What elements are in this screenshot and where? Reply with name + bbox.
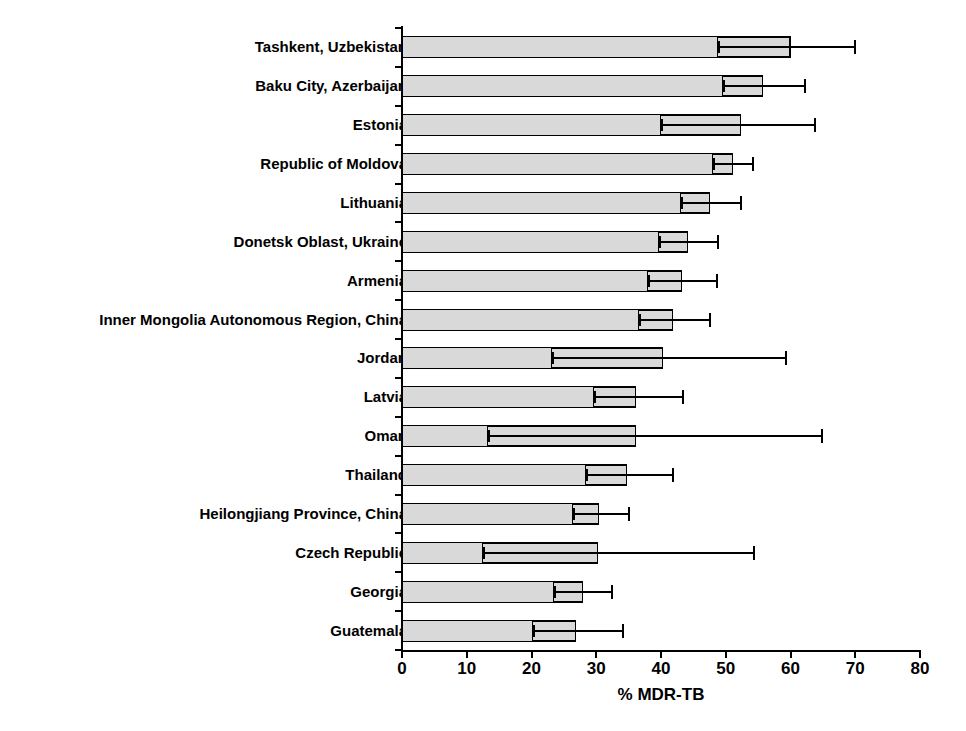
ci-whisker-line bbox=[763, 85, 806, 87]
bar-row: Guatemala bbox=[0, 611, 966, 650]
x-tick-60 bbox=[790, 651, 792, 658]
ci-upper-cap bbox=[753, 546, 755, 560]
category-label: Thailand bbox=[345, 466, 407, 484]
ci-whisker-line bbox=[733, 163, 753, 165]
x-tick-40 bbox=[660, 651, 662, 658]
bar-row: Latvia bbox=[0, 378, 966, 417]
ci-center-line bbox=[551, 357, 663, 359]
ci-upper-cap bbox=[717, 235, 719, 249]
bar-row: Baku City, Azerbaijan bbox=[0, 67, 966, 106]
bar-row: Republic of Moldova bbox=[0, 145, 966, 184]
ci-whisker-line bbox=[673, 319, 710, 321]
category-label: Donetsk Oblast, Ukraine bbox=[234, 233, 407, 251]
bar-row: Jordan bbox=[0, 339, 966, 378]
category-label: Latvia bbox=[364, 388, 407, 406]
category-label: Baku City, Azerbaijan bbox=[255, 77, 407, 95]
ci-upper-cap bbox=[804, 79, 806, 93]
ci-center-line bbox=[680, 202, 710, 204]
category-label: Tashkent, Uzbekistan bbox=[255, 38, 407, 56]
bar-row: Oman bbox=[0, 417, 966, 456]
ci-upper-cap bbox=[740, 196, 742, 210]
ci-center-line bbox=[658, 241, 687, 243]
ci-whisker-line bbox=[682, 280, 717, 282]
category-label: Estonia bbox=[353, 116, 407, 134]
bar-row: Donetsk Oblast, Ukraine bbox=[0, 222, 966, 261]
x-tick-20 bbox=[531, 651, 533, 658]
ci-whisker-line bbox=[636, 396, 683, 398]
ci-center-line bbox=[487, 435, 636, 437]
category-label: Georgia bbox=[350, 583, 407, 601]
value-bar bbox=[402, 503, 599, 525]
value-bar bbox=[402, 192, 710, 214]
ci-center-line bbox=[532, 630, 575, 632]
bar-row: Heilongjiang Province, China bbox=[0, 495, 966, 534]
ci-upper-cap bbox=[611, 585, 613, 599]
ci-whisker-line bbox=[599, 513, 629, 515]
ci-upper-cap bbox=[628, 507, 630, 521]
x-tick-label-10: 10 bbox=[447, 659, 487, 679]
ci-upper-cap bbox=[672, 468, 674, 482]
value-bar bbox=[402, 309, 673, 331]
ci-whisker-line bbox=[791, 46, 856, 48]
bar-row: Inner Mongolia Autonomous Region, China bbox=[0, 300, 966, 339]
ci-whisker-line bbox=[583, 591, 613, 593]
ci-upper-cap bbox=[785, 351, 787, 365]
bar-row: Georgia bbox=[0, 572, 966, 611]
value-bar bbox=[402, 153, 733, 175]
category-label: Guatemala bbox=[330, 622, 407, 640]
ci-whisker-line bbox=[598, 552, 755, 554]
category-label: Heilongjiang Province, China bbox=[199, 505, 407, 523]
ci-center-line bbox=[482, 552, 598, 554]
ci-whisker-line bbox=[636, 435, 822, 437]
category-label: Inner Mongolia Autonomous Region, China bbox=[99, 311, 407, 329]
value-bar bbox=[402, 75, 763, 97]
category-label: Armenia bbox=[347, 272, 407, 290]
ci-center-line bbox=[553, 591, 583, 593]
ci-center-line bbox=[647, 280, 682, 282]
bar-row: Tashkent, Uzbekistan bbox=[0, 28, 966, 67]
ci-center-line bbox=[722, 85, 763, 87]
bar-row: Lithuania bbox=[0, 184, 966, 223]
ci-upper-cap bbox=[814, 118, 816, 132]
x-tick-label-0: 0 bbox=[382, 659, 422, 679]
ci-center-line bbox=[638, 319, 673, 321]
ci-center-line bbox=[717, 46, 791, 48]
category-label: Jordan bbox=[357, 349, 407, 367]
ci-center-line bbox=[572, 513, 599, 515]
x-tick-30 bbox=[595, 651, 597, 658]
x-tick-label-80: 80 bbox=[900, 659, 940, 679]
x-tick-label-40: 40 bbox=[641, 659, 681, 679]
ci-upper-cap bbox=[752, 157, 754, 171]
ci-center-line bbox=[712, 163, 733, 165]
value-bar bbox=[402, 231, 688, 253]
bar-row: Czech Republic bbox=[0, 533, 966, 572]
x-tick-0 bbox=[401, 651, 403, 658]
ci-upper-cap bbox=[682, 390, 684, 404]
ci-upper-cap bbox=[716, 274, 718, 288]
ci-whisker-line bbox=[741, 124, 815, 126]
bar-row: Estonia bbox=[0, 106, 966, 145]
x-tick-80 bbox=[919, 651, 921, 658]
ci-upper-cap bbox=[622, 624, 624, 638]
x-tick-label-30: 30 bbox=[576, 659, 616, 679]
value-bar bbox=[402, 270, 682, 292]
ci-center-line bbox=[585, 474, 627, 476]
x-tick-50 bbox=[725, 651, 727, 658]
ci-upper-cap bbox=[821, 429, 823, 443]
category-label: Lithuania bbox=[340, 194, 407, 212]
ci-center-line bbox=[593, 396, 636, 398]
mdr-tb-bar-chart-figure: 01020304050607080 Tashkent, UzbekistanBa… bbox=[0, 0, 966, 731]
x-tick-label-70: 70 bbox=[835, 659, 875, 679]
bar-row: Armenia bbox=[0, 261, 966, 300]
ci-whisker-line bbox=[688, 241, 718, 243]
x-axis-title: % MDR-TB bbox=[402, 685, 920, 705]
ci-whisker-line bbox=[627, 474, 673, 476]
x-tick-label-20: 20 bbox=[512, 659, 552, 679]
ci-upper-cap bbox=[709, 313, 711, 327]
ci-whisker-line bbox=[710, 202, 742, 204]
ci-whisker-line bbox=[576, 630, 624, 632]
category-label: Oman bbox=[364, 427, 407, 445]
ci-center-line bbox=[660, 124, 742, 126]
bar-row: Thailand bbox=[0, 456, 966, 495]
x-tick-label-50: 50 bbox=[706, 659, 746, 679]
